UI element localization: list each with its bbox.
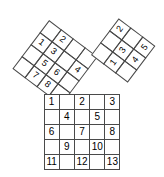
left-tilted-square: 21345678 <box>13 20 97 104</box>
grid-cell <box>89 154 105 170</box>
cell-number: 8 <box>110 127 116 137</box>
cell-number: 1 <box>49 97 55 107</box>
grid-cell: 7 <box>74 124 90 140</box>
cell-number: 7 <box>31 70 40 80</box>
cell-number: 1 <box>37 37 46 47</box>
grid-cell: 3 <box>104 94 120 110</box>
grid-cell: 11 <box>44 154 60 170</box>
grid-cell: 6 <box>44 124 60 140</box>
grid-cell <box>74 109 90 125</box>
grid-cell <box>44 139 60 155</box>
grid-cell: 8 <box>104 124 120 140</box>
bottom-upright-square: 12345678910111213 <box>44 94 120 170</box>
cell-number: 3 <box>49 46 58 56</box>
grid-cell <box>44 109 60 125</box>
grid-cell: 12 <box>74 154 90 170</box>
cell-number: 5 <box>40 58 49 68</box>
pythagorean-dissection-figure: 21345678 21345 12345678910111213 <box>0 0 164 177</box>
cell-number: 3 <box>110 97 116 107</box>
cell-number: 6 <box>52 67 61 77</box>
grid-cell <box>104 139 120 155</box>
cell-number: 9 <box>64 142 70 152</box>
cell-number: 3 <box>118 46 128 55</box>
right-tilted-square: 21345 <box>91 18 155 82</box>
cell-number: 7 <box>79 127 85 137</box>
cell-number: 4 <box>64 112 70 122</box>
cell-number: 2 <box>115 24 125 33</box>
grid-cell: 13 <box>104 154 120 170</box>
grid-cell: 4 <box>59 109 75 125</box>
grid-cell <box>89 124 105 140</box>
cell-number: 5 <box>140 43 150 52</box>
cell-number: 2 <box>58 35 67 45</box>
grid-cell: 9 <box>59 139 75 155</box>
cell-number: 11 <box>46 157 56 167</box>
cell-number: 4 <box>73 65 82 75</box>
grid-cell <box>59 124 75 140</box>
grid-cell <box>59 154 75 170</box>
cell-number: 5 <box>94 112 100 122</box>
grid-cell: 1 <box>44 94 60 110</box>
cell-number: 4 <box>130 55 140 64</box>
grid-cell <box>74 139 90 155</box>
grid-cell: 5 <box>89 109 105 125</box>
cell-number: 2 <box>79 97 85 107</box>
cell-number: 12 <box>76 157 87 167</box>
grid-cell <box>89 94 105 110</box>
grid-cell <box>59 94 75 110</box>
cell-number: 6 <box>49 127 55 137</box>
cell-number: 8 <box>43 79 52 89</box>
cell-number: 1 <box>109 58 119 67</box>
cell-number: 10 <box>92 142 103 152</box>
cell-number: 13 <box>107 157 118 167</box>
grid-cell: 2 <box>74 94 90 110</box>
grid-cell: 10 <box>89 139 105 155</box>
grid-cell <box>104 109 120 125</box>
